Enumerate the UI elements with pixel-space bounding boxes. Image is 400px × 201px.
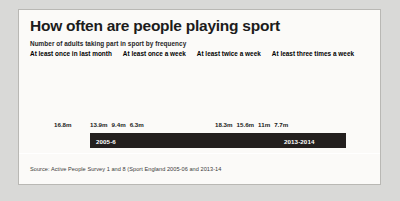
footer-divider — [19, 153, 380, 154]
chart-subtitle: Number of adults taking part in sport by… — [30, 40, 186, 47]
bar-value-label: 11m — [258, 121, 270, 128]
legend-item-twice-a-week: At least twice a week — [197, 50, 261, 57]
legend: At least once in last month At least onc… — [30, 50, 365, 57]
legend-item-once-a-week: At least once a week — [123, 50, 186, 57]
bar-item: 15.6m — [237, 121, 255, 130]
page-background: How often are people playing sport Numbe… — [0, 0, 400, 201]
bar-value-label: 16.8m — [54, 121, 72, 128]
legend-item-once-a-month: At least once in last month — [30, 50, 112, 57]
bar-value-label: 7.7m — [274, 121, 288, 128]
bar-item: 16.8m — [54, 121, 86, 130]
infographic-card: How often are people playing sport Numbe… — [18, 9, 381, 185]
bar-item: 13.9m — [90, 121, 108, 130]
group-label-2013-2014: 2013-2014 — [284, 137, 315, 144]
axis-baseline-band: 2005-6 2013-2014 — [90, 133, 346, 148]
bar-item: 11m — [258, 121, 270, 130]
group-label-2005-6: 2005-6 — [96, 137, 116, 144]
bar-value-label: 6.3m — [130, 121, 144, 128]
chart-title: How often are people playing sport — [30, 17, 280, 35]
bar-item: 7.7m — [274, 121, 288, 130]
source-note: Source: Active People Survey 1 and 8 (Sp… — [30, 166, 221, 172]
chart-plot-area: 16.8m 13.9m 9.4m 6.3m 18.3m — [19, 62, 380, 152]
bar-item: 18.3m — [215, 121, 233, 130]
bar-value-label: 13.9m — [90, 121, 108, 128]
bar-item: 6.3m — [130, 121, 144, 130]
bar-group-2005-6: 16.8m 13.9m 9.4m 6.3m — [54, 121, 148, 130]
bar-value-label: 18.3m — [215, 121, 233, 128]
bar-value-label: 15.6m — [237, 121, 255, 128]
bar-value-label: 9.4m — [112, 121, 126, 128]
bar-item: 9.4m — [112, 121, 126, 130]
bar-group-2013-2014: 18.3m 15.6m 11m 7.7m — [215, 121, 292, 130]
legend-item-three-times-a-week: At least three times a week — [272, 50, 354, 57]
